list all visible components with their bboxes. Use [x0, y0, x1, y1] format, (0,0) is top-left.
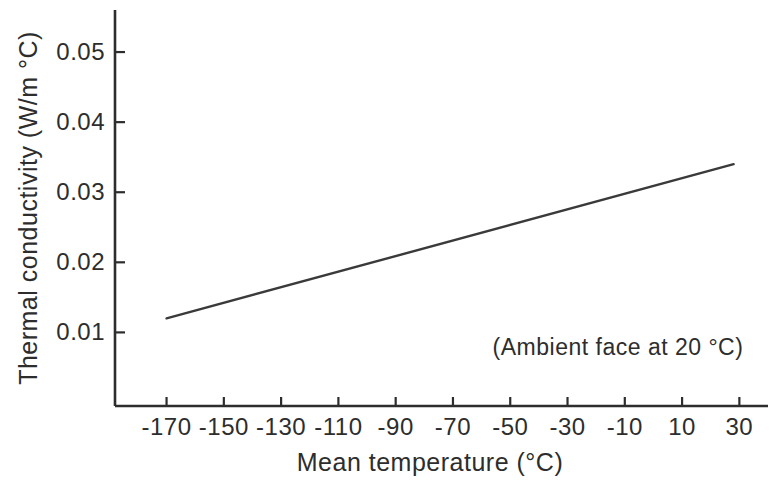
y-axis-title: Thermal conductivity (W/m °C) [14, 31, 42, 385]
x-tick-label: 10 [668, 413, 696, 440]
x-tick-label: -110 [314, 413, 362, 440]
y-tick-label: 0.01 [56, 318, 105, 345]
x-tick-label: -170 [142, 413, 192, 440]
annotation-ambient-face: (Ambient face at 20 °C) [493, 334, 744, 360]
x-tick-label: -30 [549, 413, 585, 440]
thermal-conductivity-figure: 0.010.020.030.040.05-170-150-130-110-90-… [0, 0, 780, 488]
chart-plot-area: 0.010.020.030.040.05-170-150-130-110-90-… [56, 10, 768, 440]
chart-canvas: 0.010.020.030.040.05-170-150-130-110-90-… [0, 0, 780, 488]
x-axis-title: Mean temperature (°C) [297, 448, 563, 476]
x-tick-label: -90 [378, 413, 414, 440]
y-tick-label: 0.03 [56, 178, 105, 205]
x-tick-label: -150 [199, 413, 249, 440]
y-tick-label: 0.05 [56, 38, 105, 65]
x-tick-label: -50 [492, 413, 528, 440]
x-tick-label: 30 [726, 413, 754, 440]
y-tick-label: 0.02 [56, 248, 105, 275]
y-tick-label: 0.04 [56, 108, 105, 135]
x-tick-label: -10 [607, 413, 643, 440]
x-tick-label: -70 [435, 413, 471, 440]
series-conductivity [167, 164, 734, 318]
x-tick-label: -130 [256, 413, 306, 440]
